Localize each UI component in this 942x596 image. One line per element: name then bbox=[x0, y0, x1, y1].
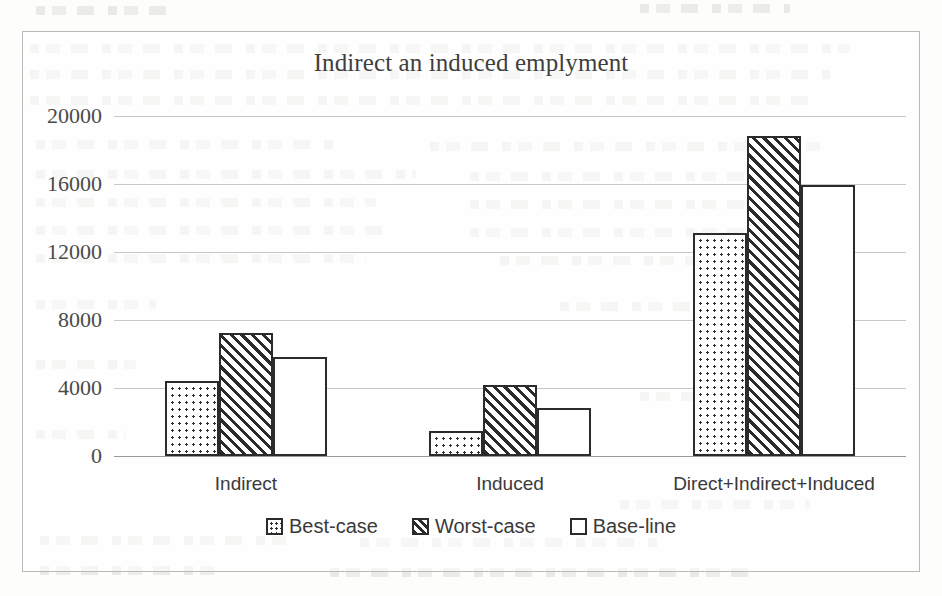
y-axis-tick-label: 4000 bbox=[58, 375, 102, 401]
legend-swatch-icon bbox=[266, 518, 283, 535]
legend-item-best-case[interactable]: Best-case bbox=[266, 515, 378, 538]
bar-best-case-induced bbox=[429, 431, 483, 456]
y-axis-tick-label: 0 bbox=[91, 443, 102, 469]
chart-legend: Best-caseWorst-caseBase-line bbox=[23, 515, 919, 538]
legend-label: Base-line bbox=[593, 515, 676, 538]
chart-title: Indirect an induced emplyment bbox=[23, 49, 919, 77]
bar-best-case-direct-indirect-induced bbox=[693, 233, 747, 456]
y-axis-tick-label: 12000 bbox=[47, 239, 102, 265]
bar-worst-case-induced bbox=[483, 385, 537, 456]
x-axis-category-label: Induced bbox=[476, 473, 544, 495]
legend-label: Worst-case bbox=[435, 515, 536, 538]
plot-area: 040008000120001600020000IndirectInducedD… bbox=[114, 116, 906, 456]
y-axis-tick-label: 8000 bbox=[58, 307, 102, 333]
gridline-20000: 20000 bbox=[114, 116, 906, 117]
chart-figure-frame: Indirect an induced emplyment 0400080001… bbox=[22, 31, 920, 572]
legend-item-base-line[interactable]: Base-line bbox=[570, 515, 676, 538]
x-axis-category-label: Indirect bbox=[215, 473, 277, 495]
bar-worst-case-direct-indirect-induced bbox=[747, 136, 801, 456]
y-axis-tick-label: 20000 bbox=[47, 103, 102, 129]
legend-swatch-icon bbox=[570, 518, 587, 535]
bar-base-line-induced bbox=[537, 408, 591, 456]
bar-base-line-indirect bbox=[273, 357, 327, 456]
x-axis-category-label: Direct+Indirect+Induced bbox=[673, 473, 875, 495]
bar-worst-case-indirect bbox=[219, 333, 273, 456]
y-axis-tick-label: 16000 bbox=[47, 171, 102, 197]
bar-best-case-indirect bbox=[165, 381, 219, 456]
legend-label: Best-case bbox=[289, 515, 378, 538]
legend-swatch-icon bbox=[412, 518, 429, 535]
bar-base-line-direct-indirect-induced bbox=[801, 185, 855, 456]
legend-item-worst-case[interactable]: Worst-case bbox=[412, 515, 536, 538]
gridline-0: 0 bbox=[114, 456, 906, 457]
